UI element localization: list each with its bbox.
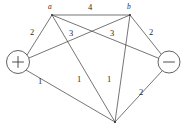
edge-a-bottom xyxy=(52,15,115,122)
node-bottom-dot xyxy=(114,121,116,123)
edge-weight-source-b: 3 xyxy=(110,29,114,38)
node-label-b: b xyxy=(127,3,131,11)
edge-b-sink xyxy=(130,15,161,54)
node-label-a: a xyxy=(48,3,52,11)
graph-figure: a b 2 4 2 3 3 1 1 1 2 xyxy=(0,0,188,133)
edge-weight-b-sink: 2 xyxy=(149,28,153,37)
node-a-dot xyxy=(51,14,53,16)
edge-weight-sink-bottom: 2 xyxy=(139,88,143,97)
edge-group xyxy=(26,15,162,122)
edge-weight-source-bottom: 1 xyxy=(38,77,42,86)
edge-weight-a-b: 4 xyxy=(88,3,92,12)
edge-weight-source-a: 2 xyxy=(30,28,34,37)
node-b-dot xyxy=(129,14,131,16)
edge-a-sink xyxy=(52,15,158,58)
edge-weight-b-bottom: 1 xyxy=(107,75,111,84)
edge-b-bottom xyxy=(115,15,130,122)
edge-source-b xyxy=(29,15,130,58)
graph-canvas xyxy=(0,0,188,133)
edge-weight-a-sink: 3 xyxy=(69,29,73,38)
edge-weight-a-bottom: 1 xyxy=(77,75,81,84)
